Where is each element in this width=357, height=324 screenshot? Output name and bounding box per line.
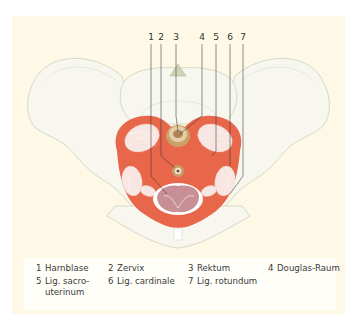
legend-item-rektum: 3Rektum: [188, 263, 230, 274]
legend-item-lig-rotundum: 7Lig. rotundum: [188, 276, 257, 287]
figure-legend: 1Harnblase 2Zervix 3Rektum 4Douglas-Raum…: [24, 258, 336, 310]
legend-item-harnblase: 1Harnblase: [36, 263, 88, 274]
figure-panel: 1 2 3 4 5 6 7 1Harnblase 2Zervix 3Rektum…: [12, 16, 345, 314]
callout-number: 5: [212, 32, 220, 42]
bladder: [153, 183, 203, 215]
legend-item-lig-cardinale: 6Lig. cardinale: [108, 276, 175, 287]
callout-number: 3: [172, 32, 180, 42]
legend-item-douglas-raum: 4Douglas-Raum: [268, 263, 340, 274]
pelvis-illustration: [12, 16, 345, 251]
callout-number: 7: [239, 32, 247, 42]
callout-number: 1: [147, 32, 155, 42]
callout-number: 6: [226, 32, 234, 42]
callout-number: 4: [198, 32, 206, 42]
legend-item-zervix: 2Zervix: [108, 263, 144, 274]
callout-number: 2: [157, 32, 165, 42]
legend-item-lig-sacrouterinum: 5Lig. sacro-uterinum: [36, 276, 89, 297]
rectum: [166, 125, 190, 147]
